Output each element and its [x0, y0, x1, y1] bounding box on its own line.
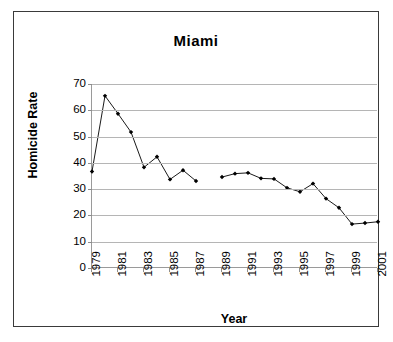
y-tick-label: 20 [60, 210, 86, 222]
chart-frame: Miami Homicide Rate 010203040506070 1979… [13, 11, 379, 327]
gridline-y-50 [92, 137, 377, 138]
x-tick-label: 1999 [351, 251, 363, 291]
x-tick-label: 1991 [247, 251, 259, 291]
data-point-marker [376, 220, 380, 224]
x-tick-label: 1985 [169, 251, 181, 291]
x-tick-label: 2001 [377, 251, 389, 291]
x-tick-label: 1981 [117, 251, 129, 291]
plot-area [91, 84, 377, 268]
y-tick-mark [88, 163, 92, 164]
y-tick-mark [88, 242, 92, 243]
x-axis-tick-labels: 1979198119831985198719891991199319951997… [91, 271, 377, 311]
gridline-y-10 [92, 242, 377, 243]
data-point-marker [90, 169, 94, 173]
data-point-marker [233, 171, 237, 175]
y-tick-mark [88, 84, 92, 85]
data-point-marker [259, 176, 263, 180]
y-tick-label: 40 [60, 157, 86, 169]
data-point-marker [298, 190, 302, 194]
gridline-y-70 [92, 84, 377, 85]
y-tick-mark [88, 110, 92, 111]
data-point-marker [246, 171, 250, 175]
data-point-marker [363, 221, 367, 225]
y-tick-label: 70 [60, 78, 86, 90]
x-tick-label: 1987 [195, 251, 207, 291]
x-tick-label: 1979 [91, 251, 103, 291]
x-tick-label: 1995 [299, 251, 311, 291]
data-series-line [92, 84, 378, 268]
chart-title: Miami [14, 32, 378, 49]
y-tick-label: 60 [60, 105, 86, 117]
y-tick-label: 0 [60, 262, 86, 274]
y-axis-tick-labels: 010203040506070 [58, 84, 86, 268]
x-tick-label: 1993 [273, 251, 285, 291]
y-tick-label: 50 [60, 131, 86, 143]
x-tick-label: 1983 [143, 251, 155, 291]
gridline-y-20 [92, 215, 377, 216]
x-axis-title: Year [91, 312, 377, 326]
y-tick-label: 30 [60, 183, 86, 195]
gridline-y-40 [92, 163, 377, 164]
y-axis-title: Homicide Rate [26, 67, 40, 203]
y-tick-mark [88, 137, 92, 138]
data-point-marker [220, 175, 224, 179]
y-tick-label: 10 [60, 236, 86, 248]
x-tick-label: 1997 [325, 251, 337, 291]
y-tick-mark [88, 215, 92, 216]
y-tick-mark [88, 189, 92, 190]
gridline-y-60 [92, 110, 377, 111]
gridline-y-30 [92, 189, 377, 190]
x-tick-label: 1989 [221, 251, 233, 291]
